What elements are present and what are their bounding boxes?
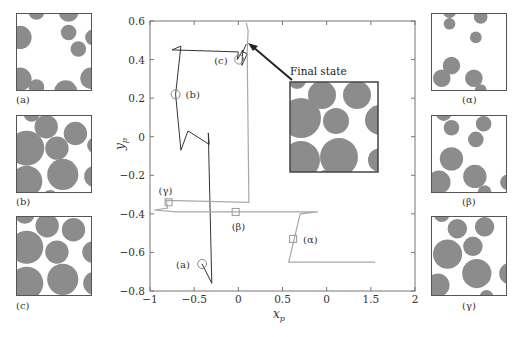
x-tick-label: 0 (323, 293, 330, 305)
x-axis-label: xp (273, 307, 285, 323)
y-tick-label: 0.4 (128, 54, 145, 66)
trajectory-chart: 0.60.40.20−0.2−0.4−0.6−0.8 −1−0.500.501.… (0, 0, 522, 337)
state-marker-label: (b) (186, 89, 200, 100)
state-marker-label: (β) (232, 221, 246, 232)
x-tick-label: 1.5 (362, 293, 379, 305)
y-tick-label: −0.6 (120, 246, 146, 258)
final-state-inset (281, 71, 395, 182)
state-marker-label: (α) (303, 234, 318, 245)
y-tick-label: −0.4 (120, 208, 146, 220)
y-tick-label: 0.6 (128, 15, 145, 27)
trajectory-line (172, 44, 247, 283)
y-axis-label: yp (113, 138, 129, 151)
final-state-label: Final state (290, 65, 347, 77)
state-marker-label: (γ) (159, 185, 173, 196)
x-tick-label: 0 (235, 293, 242, 305)
y-tick-label: 0 (138, 131, 145, 143)
x-tick-label: 2 (412, 293, 419, 305)
x-tick-label: −1 (142, 293, 157, 305)
state-marker-label: (c) (214, 55, 228, 66)
y-tick-label: 0.2 (128, 92, 145, 104)
state-marker-label: (a) (176, 259, 190, 270)
x-tick-label: 0.5 (274, 293, 291, 305)
y-tick-label: −0.2 (120, 169, 146, 181)
y-tick-label: −0.8 (120, 285, 146, 297)
final-state-arrow (252, 46, 292, 80)
x-tick-label: −0.5 (181, 293, 207, 305)
